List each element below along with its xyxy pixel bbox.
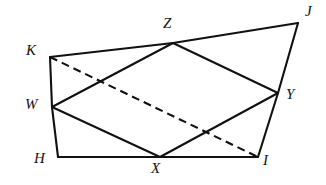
vertex-label-j: J — [305, 4, 312, 19]
edge-W-Z — [52, 43, 173, 107]
vertex-label-h: H — [34, 151, 45, 166]
edge-layer — [50, 23, 298, 157]
edge-K-I-diagonal — [50, 57, 258, 157]
edge-W-K — [50, 57, 52, 107]
vertex-label-z: Z — [163, 16, 171, 31]
vertex-label-i: I — [263, 153, 268, 168]
edge-X-W — [52, 107, 160, 157]
vertex-label-w: W — [25, 97, 38, 112]
edge-J-Y — [278, 23, 298, 93]
edge-K-Z — [50, 43, 173, 57]
edge-Z-J — [173, 23, 298, 43]
vertex-label-x: X — [151, 161, 160, 176]
edge-Z-Y — [173, 43, 278, 93]
geometry-figure: KZJYIXHW — [0, 0, 326, 185]
vertex-label-k: K — [26, 43, 36, 58]
vertex-label-y: Y — [286, 87, 294, 102]
edge-H-W — [52, 107, 58, 157]
